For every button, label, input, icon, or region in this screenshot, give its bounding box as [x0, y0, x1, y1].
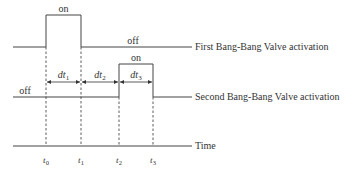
first-valve-name: First Bang-Bang Valve activation	[195, 41, 328, 52]
timing-diagram: on off First Bang-Bang Valve activation …	[0, 0, 355, 169]
first-valve-signal: on off First Bang-Bang Valve activation	[13, 3, 328, 52]
dt3-label: dt3	[130, 69, 142, 82]
second-valve-off-label: off	[19, 85, 31, 96]
second-valve-name: Second Bang-Bang Valve activation	[195, 91, 340, 102]
dt1-label: dt1	[58, 69, 70, 82]
first-valve-off-label: off	[127, 35, 139, 46]
first-valve-on-label: on	[59, 3, 69, 14]
second-valve-on-label: on	[131, 52, 141, 63]
time-axis: Time t0 t1 t2 t3	[13, 140, 216, 166]
dt2-label: dt2	[94, 69, 106, 82]
tick-t3: t3	[150, 155, 156, 166]
tick-t1: t1	[78, 155, 84, 166]
tick-t0: t0	[43, 155, 49, 166]
time-axis-label: Time	[195, 140, 216, 151]
tick-t2: t2	[116, 155, 122, 166]
